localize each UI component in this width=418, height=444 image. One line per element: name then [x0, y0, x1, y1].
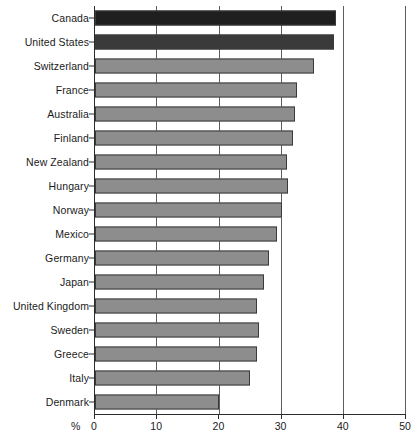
- bar: [95, 347, 257, 362]
- x-axis-tick-mark: [405, 414, 406, 419]
- bar-row: Mexico: [0, 222, 418, 246]
- bar-row: Australia: [0, 102, 418, 126]
- bar: [95, 275, 264, 290]
- bar-row: United Kingdom: [0, 294, 418, 318]
- y-axis-tick: [89, 18, 94, 19]
- x-axis-tick-mark: [94, 414, 95, 419]
- bar: [95, 227, 277, 242]
- bar-row: Greece: [0, 342, 418, 366]
- bar-row: Finland: [0, 126, 418, 150]
- y-axis-tick: [89, 114, 94, 115]
- category-label: Canada: [52, 12, 89, 24]
- bar: [95, 83, 297, 98]
- bar: [95, 59, 314, 74]
- x-axis-tick-mark: [343, 414, 344, 419]
- x-axis-unit-label: %: [71, 420, 80, 432]
- bar-row: Norway: [0, 198, 418, 222]
- bar-row: New Zealand: [0, 150, 418, 174]
- y-axis-tick: [89, 330, 94, 331]
- category-label: Hungary: [49, 180, 89, 192]
- y-axis-tick: [89, 162, 94, 163]
- bar: [95, 395, 219, 410]
- y-axis-tick: [89, 306, 94, 307]
- bar: [95, 35, 334, 50]
- bar-row: Hungary: [0, 174, 418, 198]
- bar: [95, 107, 295, 122]
- y-axis-tick: [89, 42, 94, 43]
- category-label: Finland: [54, 132, 89, 144]
- y-axis-tick: [89, 354, 94, 355]
- bar-rows: CanadaUnited StatesSwitzerlandFranceAust…: [0, 6, 418, 414]
- x-axis-tick-label: 10: [150, 420, 162, 432]
- category-label: Switzerland: [34, 60, 89, 72]
- y-axis-tick: [89, 402, 94, 403]
- x-axis-tick-mark: [281, 414, 282, 419]
- category-label: United Kingdom: [13, 300, 89, 312]
- bar-row: United States: [0, 30, 418, 54]
- bar-row: Japan: [0, 270, 418, 294]
- bar: [95, 155, 287, 170]
- bar-chart: CanadaUnited StatesSwitzerlandFranceAust…: [0, 0, 418, 444]
- category-label: Italy: [69, 372, 89, 384]
- category-label: France: [56, 84, 89, 96]
- x-axis-tick-label: 50: [399, 420, 411, 432]
- x-axis-tick-mark: [218, 414, 219, 419]
- category-label: Denmark: [46, 396, 89, 408]
- bar: [95, 131, 293, 146]
- bar-row: Canada: [0, 6, 418, 30]
- x-axis-tick-label: 30: [275, 420, 287, 432]
- bar-row: Germany: [0, 246, 418, 270]
- category-label: Germany: [45, 252, 89, 264]
- y-axis-tick: [89, 138, 94, 139]
- bar-row: Italy: [0, 366, 418, 390]
- bar: [95, 11, 336, 26]
- category-label: Norway: [53, 204, 89, 216]
- y-axis-tick: [89, 66, 94, 67]
- x-axis-tick-label: 20: [213, 420, 225, 432]
- y-axis-tick: [89, 90, 94, 91]
- y-axis-tick: [89, 186, 94, 187]
- bar-row: France: [0, 78, 418, 102]
- category-label: New Zealand: [26, 156, 89, 168]
- bar: [95, 323, 259, 338]
- bar-row: Sweden: [0, 318, 418, 342]
- y-axis-tick: [89, 258, 94, 259]
- category-label: Japan: [60, 276, 89, 288]
- y-axis-tick: [89, 210, 94, 211]
- bar: [95, 251, 269, 266]
- x-axis-tick-mark: [156, 414, 157, 419]
- x-axis-ticks: 01020304050: [0, 414, 418, 444]
- y-axis-tick: [89, 378, 94, 379]
- category-label: Sweden: [50, 324, 89, 336]
- category-label: Australia: [47, 108, 89, 120]
- y-axis-tick: [89, 282, 94, 283]
- category-label: Greece: [54, 348, 89, 360]
- x-axis-tick-label: 40: [337, 420, 349, 432]
- category-label: United States: [25, 36, 89, 48]
- bar: [95, 179, 288, 194]
- bar: [95, 203, 282, 218]
- bar: [95, 299, 257, 314]
- category-label: Mexico: [55, 228, 89, 240]
- bar-row: Denmark: [0, 390, 418, 414]
- bar-row: Switzerland: [0, 54, 418, 78]
- y-axis-tick: [89, 234, 94, 235]
- bar: [95, 371, 250, 386]
- x-axis-tick-label: 0: [91, 420, 97, 432]
